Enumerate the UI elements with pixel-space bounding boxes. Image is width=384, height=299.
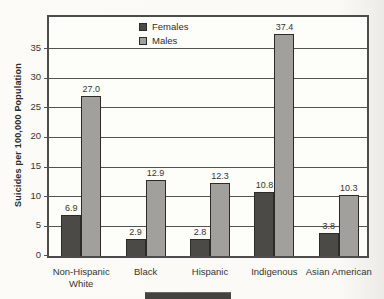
males-swatch-icon <box>139 37 147 45</box>
y-tick-mark-5 <box>44 226 49 227</box>
y-tick-label-0: 0 <box>17 250 41 260</box>
y-tick-label-15: 15 <box>17 161 41 171</box>
value-label-males-1: 27.0 <box>69 84 113 94</box>
value-label-males-2: 12.9 <box>134 168 178 178</box>
y-tick-mark-20 <box>44 137 49 138</box>
value-label-males-4: 37.4 <box>262 22 306 32</box>
y-tick-mark-25 <box>44 107 49 108</box>
bar-males-3 <box>210 183 230 256</box>
value-label-males-5: 10.3 <box>327 183 371 193</box>
value-label-males-3: 12.3 <box>198 171 242 181</box>
bar-males-5 <box>339 195 359 256</box>
legend-label-males: Males <box>152 35 177 46</box>
bar-females-5 <box>319 233 339 256</box>
y-tick-mark-15 <box>44 167 49 168</box>
legend-label-females: Females <box>152 21 188 32</box>
chart-figure: Suicides per 100,000 Population 05101520… <box>0 0 384 299</box>
y-tick-label-30: 30 <box>17 72 41 82</box>
bar-females-1 <box>61 215 81 256</box>
y-tick-label-20: 20 <box>17 131 41 141</box>
y-tick-label-10: 10 <box>17 191 41 201</box>
gridline-30 <box>49 78 367 79</box>
bar-males-1 <box>81 96 101 256</box>
y-tick-mark-0 <box>44 255 49 256</box>
y-tick-mark-10 <box>44 196 49 197</box>
y-tick-label-5: 5 <box>17 220 41 230</box>
x-category-label-5: Asian American <box>300 266 378 278</box>
y-tick-label-35: 35 <box>17 43 41 53</box>
cropped-caption-bar <box>145 292 231 299</box>
bar-females-3 <box>190 239 210 256</box>
bar-males-4 <box>274 34 294 256</box>
bar-females-4 <box>254 192 274 256</box>
y-tick-mark-35 <box>44 48 49 49</box>
legend-item-females: Females <box>139 21 188 32</box>
legend-item-males: Males <box>139 35 188 46</box>
y-tick-label-25: 25 <box>17 102 41 112</box>
bar-females-2 <box>126 239 146 256</box>
legend: Females Males <box>139 21 188 46</box>
females-swatch-icon <box>139 23 147 31</box>
plot-area: 051015202530356.927.0Non-Hispanic White2… <box>47 15 369 258</box>
y-tick-mark-30 <box>44 78 49 79</box>
gridline-35 <box>49 48 367 49</box>
bar-males-2 <box>146 180 166 256</box>
